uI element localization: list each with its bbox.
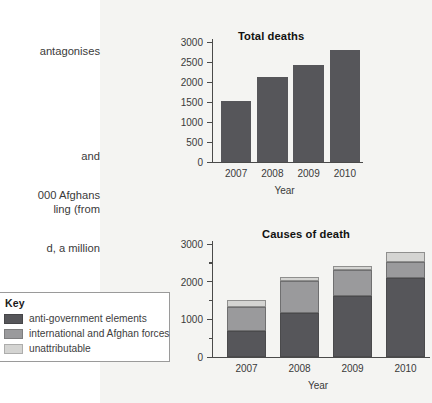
legend-item-unattributable: unattributable [4,341,165,356]
bar [386,252,424,357]
bar-segment [280,277,318,281]
x-axis-tick-label: 2007 [220,363,273,374]
bar [333,266,371,357]
bar-segment [333,270,371,296]
y-axis-tick-label: 0 [197,157,203,168]
y-axis-tick-label: 3000 [181,239,203,250]
y-axis-minor-tick [209,338,213,339]
bar-segment [227,307,265,331]
y-axis-tick [207,122,213,123]
legend-item-label: unattributable [29,343,91,354]
y-axis-tick-label: 2000 [181,77,203,88]
y-axis-tick [207,319,213,320]
x-axis-title: Year [212,380,424,391]
y-axis-tick [207,42,213,43]
bar [227,300,265,357]
y-axis-tick [207,281,213,282]
plot-area: 0500100015002000250030002007200820092010 [212,42,357,162]
bar-segment [386,252,424,262]
y-axis-tick [207,142,213,143]
body-text-blank [0,96,100,114]
y-axis-tick [207,82,213,83]
legend-title: Key [5,297,165,309]
x-axis-tick-label: 2008 [254,168,290,179]
bar-segment [227,331,265,357]
y-axis-tick-label: 2000 [181,276,203,287]
y-axis-tick [207,102,213,103]
y-axis-tick-label: 0 [197,352,203,363]
chart-title: Total deaths [238,30,304,42]
y-axis-minor-tick [209,300,213,301]
x-axis-tick-label: 2010 [327,168,363,179]
legend-item-label: international and Afghan forces [29,328,169,339]
x-axis-line [212,162,363,163]
chart-total-deaths: Total deaths 050010001500200025003000200… [160,20,432,205]
y-axis-tick-label: 3000 [181,37,203,48]
bar-segment [280,313,318,357]
x-axis-title: Year [212,185,357,196]
bar-segment [227,300,265,307]
chart-causes-of-death: Causes of death 010002000300020072008200… [160,222,432,403]
body-text-line: d, a million [0,240,100,258]
body-text-line: 000 Afghans [0,187,100,205]
body-text-line: antagonises [0,43,100,61]
bar-segment [386,278,424,357]
bar [221,101,251,162]
legend-swatch-icon [4,314,23,324]
legend-item-international-and-afghan-forces: international and Afghan forces [4,326,165,341]
bar-segment [280,281,318,314]
x-axis-tick-label: 2007 [218,168,254,179]
x-axis-line [212,357,430,358]
x-axis-tick-label: 2009 [326,363,379,374]
y-axis-tick [207,357,213,358]
bar [293,65,323,162]
x-axis-tick-label: 2008 [273,363,326,374]
legend-swatch-icon [4,344,23,354]
chart-legend: Key anti-government elements internation… [0,292,170,362]
y-axis-tick-label: 1000 [181,117,203,128]
chart-title: Causes of death [262,228,350,240]
legend-item-anti-government-elements: anti-government elements [4,311,165,326]
y-axis-tick [207,162,213,163]
y-axis-tick-label: 500 [186,137,203,148]
legend-item-label: anti-government elements [29,313,147,324]
bar-segment [333,266,371,270]
y-axis-tick [207,62,213,63]
y-axis-tick-label: 1500 [181,97,203,108]
bar [257,77,287,162]
bar-segment [333,296,371,357]
y-axis-tick [207,244,213,245]
bar [280,277,318,357]
x-axis-tick-label: 2010 [379,363,432,374]
y-axis-minor-tick [209,262,213,263]
y-axis-tick-label: 2500 [181,57,203,68]
legend-swatch-icon [4,329,23,339]
x-axis-tick-label: 2009 [291,168,327,179]
bar-segment [386,262,424,278]
plot-area: 01000200030002007200820092010 [212,244,424,357]
bar [330,50,360,162]
y-axis-tick-label: 1000 [181,314,203,325]
